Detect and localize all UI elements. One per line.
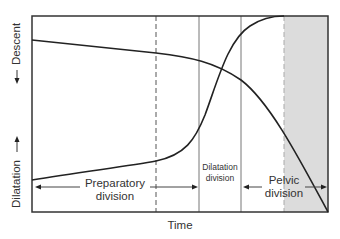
preparatory-label-1: Preparatory <box>85 177 145 189</box>
preparatory-label-2: division <box>96 190 134 202</box>
dilatation-label-2: division <box>206 173 235 183</box>
arrow-up-icon <box>15 136 20 142</box>
arrow-down-icon <box>15 78 20 84</box>
arrowhead-right-icon <box>192 185 198 190</box>
labor-curve-chart: Preparatory division Dilatation division… <box>0 0 340 239</box>
arrowhead-left-icon <box>243 185 249 190</box>
x-axis-label: Time <box>167 219 192 231</box>
y-label-dilatation: Dilatation <box>10 160 22 208</box>
y-label-descent: Descent <box>10 22 22 65</box>
arrowhead-left-icon <box>35 185 41 190</box>
dilatation-label-1: Dilatation <box>202 162 238 172</box>
pelvic-label-2: division <box>265 187 303 199</box>
dilatation-curve <box>32 16 284 180</box>
pelvic-label-1: Pelvic <box>269 174 300 186</box>
